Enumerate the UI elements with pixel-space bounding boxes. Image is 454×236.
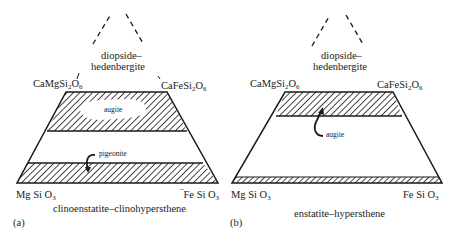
apex-dashed-right — [126, 14, 144, 45]
pyroxene-quadrilateral-diagrams — [0, 0, 454, 236]
series-label-a: clinoenstatite–clinohypersthene — [53, 204, 186, 215]
endmember-mgsio3-b: Mg Si O3 — [231, 190, 271, 201]
endmember-camgsi2o6-a: CaMgSi2O6 — [33, 79, 83, 90]
augite-label-a: augite — [104, 106, 122, 114]
apex-label-a-line1: diopside– — [101, 51, 142, 62]
endmember-cafesi2o6-b: CaFeSi2O6 — [377, 80, 423, 91]
endmember-fesio3-b: Fe Si O3 — [403, 190, 439, 201]
endmember-fesio3-a: ‾Fe Si O3 — [180, 190, 219, 201]
pigeonite-label-a: pigeonite — [99, 150, 127, 158]
series-label-b: enstatite–hypersthene — [294, 209, 385, 220]
apex-dashed-right — [346, 15, 364, 46]
pigeonite-subsolvus-field — [17, 163, 218, 183]
apex-label-a-line2: hedenbergite — [91, 62, 145, 73]
augite-field — [276, 92, 402, 116]
endmember-camgsi2o6-b: CaMgSi2O6 — [250, 79, 300, 90]
apex-dashed-left — [312, 15, 330, 46]
endmember-cafesi2o6-a: CaFeSi2O6 — [161, 81, 207, 92]
apex-label-b-line1: diopside– — [321, 51, 362, 62]
panel-b — [232, 15, 442, 183]
apex-dashed-left — [93, 14, 111, 44]
tick-right — [158, 76, 160, 79]
augite-label-b: augite — [326, 131, 344, 139]
endmember-mgsio3-a: Mg Si O3 — [16, 190, 56, 201]
apex-label-b-line2: hedenbergite — [313, 62, 367, 73]
panel-label-a: (a) — [13, 218, 25, 229]
panel-label-b: (b) — [230, 218, 242, 229]
orthopyroxene-field — [232, 177, 442, 183]
